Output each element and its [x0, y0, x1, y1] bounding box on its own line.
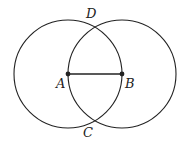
label-c: C [83, 125, 93, 140]
label-a: A [55, 76, 65, 91]
diagram-canvas: A B C D [0, 0, 186, 144]
point-b-dot [120, 72, 125, 77]
point-a-dot [66, 72, 71, 77]
label-b: B [124, 76, 135, 91]
label-d: D [85, 6, 97, 21]
